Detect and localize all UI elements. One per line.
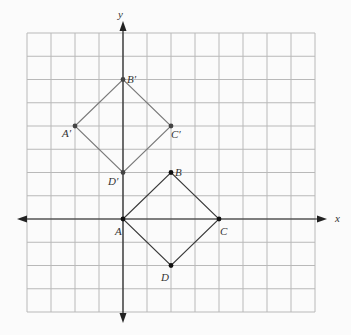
vertex-point: [217, 217, 222, 222]
y-axis-up-arrow-icon: [120, 21, 127, 31]
vertex-label: D: [160, 271, 169, 283]
x-axis-right-arrow-icon: [317, 216, 327, 223]
x-axis-left-arrow-icon: [17, 216, 27, 223]
vertex-label: D′: [107, 175, 119, 187]
vertex-point: [121, 217, 126, 222]
coordinate-plane: x y ABCDA′B′C′D′: [0, 0, 351, 335]
vertex-label: B′: [127, 73, 137, 85]
vertex-label: B: [175, 166, 182, 178]
vertex-label: A′: [61, 127, 72, 139]
vertex-point: [73, 124, 78, 129]
figures: ABCDA′B′C′D′: [61, 73, 228, 283]
vertex-label: C′: [171, 128, 181, 140]
y-axis-down-arrow-icon: [120, 313, 127, 323]
vertex-point: [169, 263, 174, 268]
vertex-label: A: [114, 225, 122, 237]
vertex-point: [169, 170, 174, 175]
vertex-point: [121, 77, 126, 82]
vertex-label: C: [220, 225, 228, 237]
vertex-point: [121, 170, 126, 175]
y-axis-label: y: [117, 8, 123, 20]
x-axis-label: x: [334, 212, 340, 224]
figure-image: A′B′C′D′: [61, 73, 181, 187]
